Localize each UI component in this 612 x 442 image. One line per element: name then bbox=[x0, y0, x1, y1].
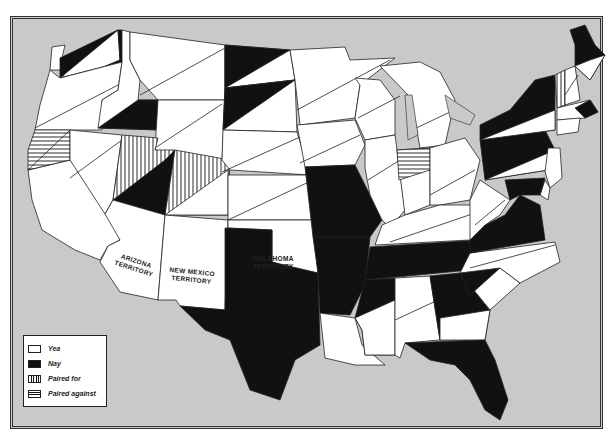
state-maryland bbox=[505, 178, 545, 200]
territory-label-line: TERRITORY bbox=[253, 263, 294, 271]
state-new-jersey bbox=[545, 148, 562, 188]
legend-item-paired-for: Paired for bbox=[28, 371, 102, 386]
state-new-mexico bbox=[158, 215, 228, 310]
state-kansas bbox=[228, 175, 313, 220]
legend-item-paired-against: Paired against bbox=[28, 386, 102, 401]
state-new-york bbox=[480, 75, 555, 140]
legend-item-yea: Yea bbox=[28, 341, 102, 356]
paired-against-swatch-icon bbox=[28, 390, 41, 398]
map-legend: Yea Nay Paired for Paired against bbox=[23, 335, 107, 407]
state-iowa bbox=[297, 120, 365, 167]
legend-item-nay: Nay bbox=[28, 356, 102, 371]
territory-label-oklahoma: OKLAHOMA TERRITORY bbox=[253, 255, 294, 271]
legend-label: Nay bbox=[48, 360, 61, 367]
state-new-hampshire bbox=[565, 66, 580, 105]
nay-swatch-icon bbox=[28, 360, 41, 368]
paired-for-swatch-icon bbox=[28, 375, 41, 383]
state-colorado bbox=[165, 150, 230, 215]
legend-label: Paired against bbox=[48, 390, 96, 397]
state-montana bbox=[130, 32, 225, 100]
yea-swatch-icon bbox=[28, 345, 41, 353]
legend-label: Paired for bbox=[48, 375, 81, 382]
state-connecticut bbox=[557, 118, 580, 135]
legend-label: Yea bbox=[48, 345, 60, 352]
state-vermont bbox=[555, 70, 565, 108]
state-arizona bbox=[100, 200, 165, 300]
state-florida bbox=[405, 340, 508, 420]
state-wisconsin bbox=[355, 78, 400, 140]
territory-label-line: OKLAHOMA bbox=[253, 255, 294, 263]
state-nebraska bbox=[222, 130, 310, 175]
state-south-dakota bbox=[223, 80, 297, 132]
